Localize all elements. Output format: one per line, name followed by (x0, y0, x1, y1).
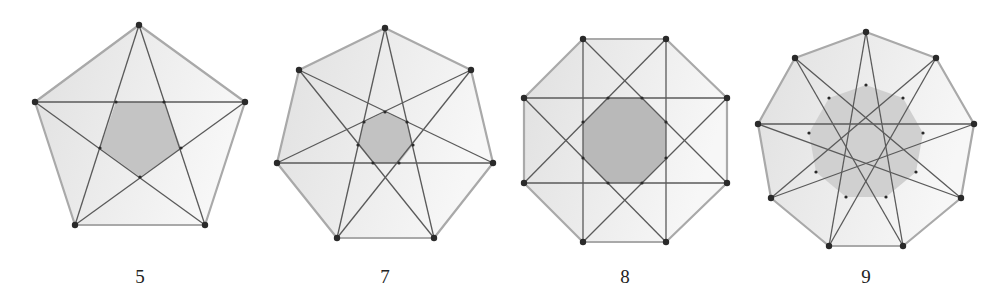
polygon-panel-7: 7 (274, 25, 496, 287)
vertex-dot (521, 180, 527, 186)
vertex-dot (900, 243, 906, 249)
vertex-dot (136, 22, 142, 28)
intersection-dot (884, 195, 887, 198)
intersection-dot (581, 156, 584, 159)
vertex-dot (382, 25, 388, 31)
vertex-dot (431, 235, 437, 241)
intersection-dot (901, 96, 904, 99)
vertex-dot (755, 121, 761, 127)
vertex-dot (490, 160, 496, 166)
intersection-dot (411, 143, 414, 146)
vertex-dot (202, 222, 208, 228)
vertex-dot (792, 55, 798, 61)
intersection-dot (383, 110, 386, 113)
intersection-dot (864, 83, 867, 86)
intersection-dot (581, 120, 584, 123)
intersection-dot (807, 131, 810, 134)
star-polygon-figure: 5789 (0, 0, 1000, 304)
polygon-panel-5: 5 (32, 22, 248, 287)
panel-label: 7 (380, 266, 390, 287)
vertex-dot (580, 36, 586, 42)
vertex-dot (826, 243, 832, 249)
vertex-dot (663, 239, 669, 245)
intersection-dot (356, 143, 359, 146)
intersection-dot (664, 120, 667, 123)
vertex-dot (768, 195, 774, 201)
vertex-dot (242, 99, 248, 105)
vertex-dot (274, 160, 280, 166)
intersection-dot (606, 181, 609, 184)
intersection-dot (371, 161, 374, 164)
intersection-dot (814, 170, 817, 173)
intersection-dot (162, 100, 165, 103)
intersection-dot (640, 181, 643, 184)
intersection-dot (405, 120, 408, 123)
intersection-dot (914, 170, 917, 173)
vertex-dot (663, 36, 669, 42)
intersection-dot (827, 96, 830, 99)
vertex-dot (863, 29, 869, 35)
vertex-dot (971, 121, 977, 127)
vertex-dot (72, 222, 78, 228)
intersection-dot (640, 96, 643, 99)
polygon-panel-8: 8 (521, 36, 730, 287)
vertex-dot (958, 195, 964, 201)
intersection-dot (397, 161, 400, 164)
vertex-dot (296, 67, 302, 73)
intersection-dot (362, 120, 365, 123)
intersection-dot (138, 175, 141, 178)
vertex-dot (334, 235, 340, 241)
vertex-dot (724, 95, 730, 101)
intersection-dot (921, 131, 924, 134)
vertex-dot (521, 95, 527, 101)
vertex-dot (933, 55, 939, 61)
intersection-dot (179, 146, 182, 149)
vertex-dot (580, 239, 586, 245)
vertex-dot (468, 67, 474, 73)
intersection-dot (844, 195, 847, 198)
intersection-dot (114, 100, 117, 103)
intersection-dot (606, 96, 609, 99)
intersection-dot (98, 146, 101, 149)
panel-label: 9 (861, 266, 871, 287)
panel-label: 8 (620, 266, 630, 287)
panel-label: 5 (135, 266, 145, 287)
vertex-dot (724, 180, 730, 186)
intersection-dot (664, 156, 667, 159)
vertex-dot (32, 99, 38, 105)
polygon-panel-9: 9 (755, 29, 977, 287)
